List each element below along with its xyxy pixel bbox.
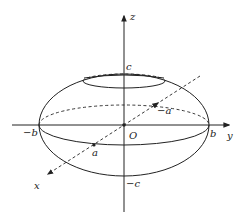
origin-point (122, 123, 126, 127)
diagram-canvas: z y x O c −c −b b a −a (0, 0, 242, 223)
bottom-label-minus-c: −c (126, 178, 140, 189)
back-label-minus-a: −a (157, 105, 171, 116)
x-axis-label: x (34, 180, 40, 191)
origin-label: O (129, 130, 137, 141)
right-label-b: b (210, 128, 216, 139)
z-axis-label: z (129, 11, 136, 22)
left-label-minus-b: −b (23, 127, 38, 138)
top-label-c: c (126, 61, 132, 72)
front-label-a: a (92, 147, 98, 158)
y-axis-label: y (226, 130, 233, 141)
ellipsoid-diagram: z y x O c −c −b b a −a (0, 0, 242, 223)
